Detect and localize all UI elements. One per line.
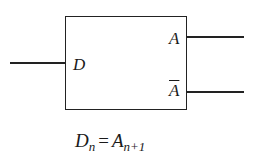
- input-wire-d: [10, 62, 66, 64]
- input-label-d: D: [73, 56, 85, 73]
- equation-rhs: A: [112, 130, 124, 151]
- equation: Dn=An+1: [75, 131, 145, 157]
- output-label-a-bar: A: [169, 82, 179, 99]
- equation-lhs: D: [75, 130, 89, 151]
- output-wire-a: [187, 36, 244, 38]
- output-wire-a-bar: [187, 91, 244, 93]
- equation-rhs-sub: n+1: [124, 139, 146, 154]
- output-label-a: A: [169, 30, 179, 47]
- equation-lhs-sub: n: [89, 139, 96, 154]
- equation-equals: =: [98, 130, 109, 151]
